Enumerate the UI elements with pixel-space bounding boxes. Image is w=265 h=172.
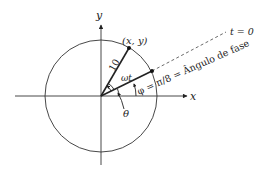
phase-angle-label: φ = π/8 = Ângulo de fase — [135, 37, 251, 97]
theta-pointer — [118, 93, 124, 109]
omega-t-label: ωt — [121, 73, 132, 83]
t0-label: t = 0 — [230, 26, 254, 37]
x-axis-label: x — [190, 90, 197, 103]
point-xy-dot — [127, 46, 131, 50]
phasor-diagram: y x (x, y) 10 ωt φ = π/8 = Ângulo de fas… — [0, 0, 265, 172]
omega-t-arc — [107, 86, 111, 91]
y-axis-label: y — [95, 9, 103, 22]
phase-point-dot — [150, 69, 154, 73]
point-xy-label: (x, y) — [122, 35, 148, 46]
radius-label: 10 — [106, 57, 122, 73]
theta-label: θ — [123, 108, 129, 119]
